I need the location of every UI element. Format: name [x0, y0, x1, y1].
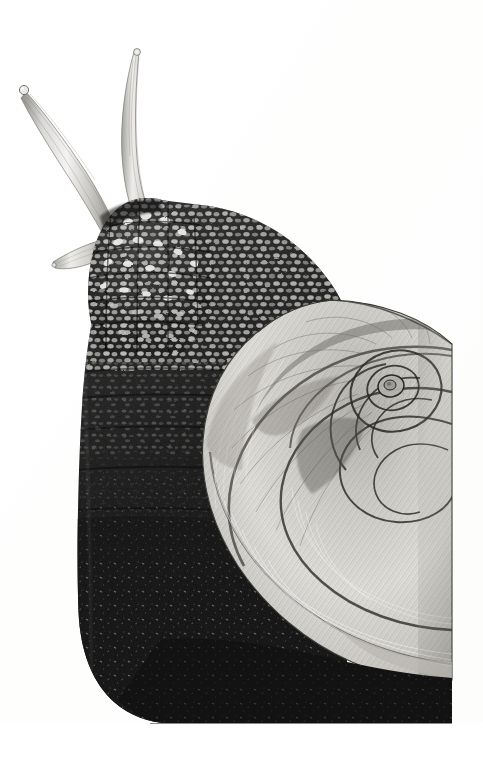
snail-illustration: Monochrome pen-and-ink engraving of a la…: [0, 0, 483, 763]
plate-bottom-edge: [0, 723, 483, 763]
eye-bulb-left-icon: [19, 85, 28, 94]
eye-bulb-right-icon: [134, 49, 141, 56]
snail-engraving-canvas: Monochrome pen-and-ink engraving of a la…: [0, 0, 483, 763]
